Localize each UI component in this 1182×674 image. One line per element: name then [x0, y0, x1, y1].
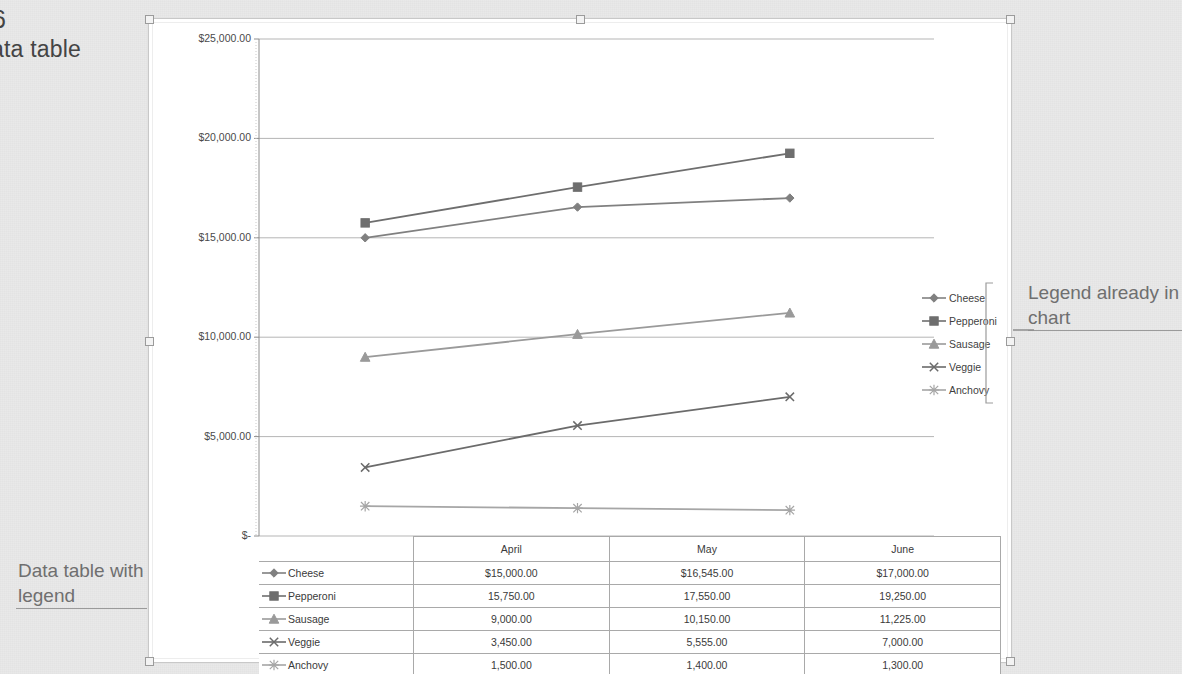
legend-item-label: Anchovy [949, 384, 989, 396]
table-legend-key [261, 590, 287, 602]
table-row-header-veggie: Veggie [259, 631, 414, 654]
table-cell: 17,550.00 [609, 585, 805, 608]
table-column-header: April [414, 537, 610, 562]
figure-caption: –6 data table [0, 4, 148, 64]
table-cell: $16,545.00 [609, 562, 805, 585]
table-row-label: Anchovy [288, 659, 328, 671]
series-marker [573, 183, 581, 191]
legend-item-sausage[interactable]: Sausage [921, 332, 999, 355]
series-marker [786, 149, 794, 157]
legend-item-label: Sausage [949, 338, 990, 350]
series-marker [786, 194, 794, 202]
table-row: Anchovy1,500.001,400.001,300.00 [259, 654, 1001, 674]
table-row-label: Veggie [288, 636, 320, 648]
figure-caption-line-2: data table [0, 34, 148, 64]
table-column-header: May [609, 537, 805, 562]
data-table: AprilMayJune Cheese$15,000.00$16,545.00$… [259, 536, 1001, 674]
table-column-header: June [805, 537, 1001, 562]
table-row: Veggie3,450.005,555.007,000.00 [259, 631, 1001, 654]
legend-item-pepperoni[interactable]: Pepperoni [921, 309, 999, 332]
legend-key [921, 292, 947, 304]
legend-item-label: Cheese [949, 292, 985, 304]
legend-key-diamond-icon [261, 567, 287, 579]
table-cell: 5,555.00 [609, 631, 805, 654]
series-marker [361, 234, 369, 242]
legend-key [921, 384, 947, 396]
series-marker [572, 503, 582, 513]
table-legend-key [261, 567, 287, 579]
table-cell: 9,000.00 [414, 608, 610, 631]
series-marker [930, 316, 938, 324]
series-marker [573, 203, 581, 211]
annotation-legend-already-in-chart: Legend already in chart [1028, 280, 1182, 330]
legend-key [921, 338, 947, 350]
table-cell: 1,500.00 [414, 654, 610, 674]
legend-item-cheese[interactable]: Cheese [921, 286, 999, 309]
table-row-label: Sausage [288, 613, 329, 625]
legend-key-star-icon [921, 384, 947, 396]
series-marker [270, 592, 278, 600]
legend-key [921, 315, 947, 327]
figure-caption-line-1: –6 [0, 4, 148, 34]
table-row-header-sausage: Sausage [259, 608, 414, 631]
table-cell: 7,000.00 [805, 631, 1001, 654]
table-row: Sausage9,000.0010,150.0011,225.00 [259, 608, 1001, 631]
annotation-data-table-with-legend: Data table with legend [18, 558, 168, 608]
legend-key-square-icon [921, 315, 947, 327]
legend-item-label: Pepperoni [949, 315, 997, 327]
legend-key-star-icon [261, 659, 287, 671]
table-cell: 1,300.00 [805, 654, 1001, 674]
legend-key-diamond-icon [921, 292, 947, 304]
table-row-header-cheese: Cheese [259, 562, 414, 585]
annotation-data-table-underline [16, 608, 168, 609]
table-cell: 1,400.00 [609, 654, 805, 674]
legend-item-anchovy[interactable]: Anchovy [921, 378, 999, 401]
legend-key-x-icon [261, 636, 287, 648]
legend-item-label: Veggie [949, 361, 981, 373]
table-cell: 15,750.00 [414, 585, 610, 608]
chart-legend: CheesePepperoniSausageVeggieAnchovy [921, 286, 999, 401]
legend-key-x-icon [921, 361, 947, 373]
table-cell: 19,250.00 [805, 585, 1001, 608]
series-marker [785, 505, 795, 515]
table-row: Pepperoni15,750.0017,550.0019,250.00 [259, 585, 1001, 608]
table-cell: 11,225.00 [805, 608, 1001, 631]
legend-item-veggie[interactable]: Veggie [921, 355, 999, 378]
table-legend-key [261, 613, 287, 625]
table-row: Cheese$15,000.00$16,545.00$17,000.00 [259, 562, 1001, 585]
series-line-veggie [365, 397, 790, 468]
table-header-row: AprilMayJune [259, 537, 1001, 562]
table-row-label: Pepperoni [288, 590, 336, 602]
series-marker [929, 384, 939, 394]
series-marker [930, 293, 938, 301]
series-marker [269, 660, 279, 670]
table-row-header-pepperoni: Pepperoni [259, 585, 414, 608]
table-cell: $15,000.00 [414, 562, 610, 585]
table-legend-key [261, 636, 287, 648]
table-cell: $17,000.00 [805, 562, 1001, 585]
table-corner-cell [259, 537, 414, 562]
table-cell: 10,150.00 [609, 608, 805, 631]
table-row-label: Cheese [288, 567, 324, 579]
series-marker [270, 569, 278, 577]
legend-key-triangle-icon [261, 613, 287, 625]
table-cell: 3,450.00 [414, 631, 610, 654]
table-row-header-anchovy: Anchovy [259, 654, 414, 674]
legend-key [921, 361, 947, 373]
annotation-legend-underline [1028, 330, 1182, 331]
chart-object[interactable]: $25,000.00$20,000.00$15,000.00$10,000.00… [148, 18, 1012, 663]
series-marker [360, 501, 370, 511]
series-marker [361, 219, 369, 227]
table-legend-key [261, 659, 287, 671]
legend-key-square-icon [261, 590, 287, 602]
legend-key-triangle-icon [921, 338, 947, 350]
